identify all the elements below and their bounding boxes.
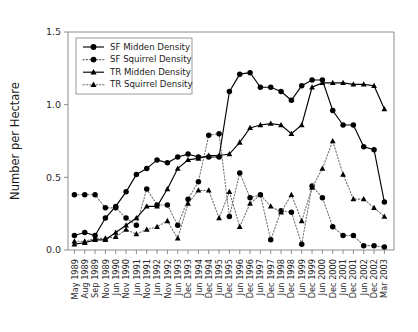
data-point-circle bbox=[340, 233, 346, 239]
y-tick-label: 0.0 bbox=[46, 244, 61, 255]
data-point-circle bbox=[206, 132, 212, 138]
data-point-circle bbox=[134, 223, 140, 229]
legend-label: TR Squirrel Density bbox=[109, 79, 193, 89]
x-tick-label: Jun 1999 bbox=[297, 259, 307, 296]
data-point-triangle bbox=[206, 187, 212, 192]
x-tick-label: Nov 1991 bbox=[142, 259, 152, 298]
data-point-triangle bbox=[237, 224, 243, 229]
data-point-circle bbox=[134, 172, 140, 178]
x-tick-label: Nov 1992 bbox=[163, 259, 173, 298]
data-point-circle bbox=[113, 204, 119, 210]
data-point-triangle bbox=[216, 215, 222, 220]
x-tick-label: Jun 2000 bbox=[317, 259, 327, 296]
data-point-circle bbox=[382, 244, 388, 250]
data-point-circle bbox=[351, 233, 357, 239]
x-tick-label: Aug 1989 bbox=[80, 259, 90, 298]
data-point-circle bbox=[330, 108, 336, 114]
chart-figure: 0.00.51.01.5Number per HectareMay 1989Au… bbox=[0, 0, 418, 332]
x-tick-label: Dec 2002 bbox=[369, 259, 379, 298]
data-point-circle bbox=[144, 186, 150, 192]
data-point-triangle bbox=[165, 218, 171, 223]
x-tick-label: Dec 1993 bbox=[183, 259, 193, 298]
x-tick-label: Dec 2001 bbox=[348, 259, 358, 298]
data-point-circle bbox=[72, 192, 78, 198]
x-tick-label: Jun 1991 bbox=[132, 259, 142, 296]
y-axis-label: Number per Hectare bbox=[8, 82, 22, 200]
data-point-triangle bbox=[289, 192, 295, 197]
x-tick-label: Dec 1996 bbox=[245, 259, 255, 298]
data-point-triangle bbox=[113, 229, 119, 234]
data-point-triangle bbox=[382, 106, 388, 111]
data-point-circle bbox=[320, 195, 326, 201]
data-point-triangle bbox=[299, 122, 305, 127]
data-point-triangle bbox=[154, 224, 160, 229]
data-point-circle bbox=[237, 170, 243, 176]
data-point-circle bbox=[351, 122, 357, 128]
x-tick-label: Nov 1989 bbox=[101, 259, 111, 298]
data-point-circle bbox=[154, 157, 160, 163]
data-point-circle bbox=[361, 144, 367, 150]
data-point-circle bbox=[92, 192, 98, 198]
data-point-circle bbox=[247, 70, 253, 76]
data-point-circle bbox=[175, 223, 181, 229]
data-point-triangle bbox=[299, 218, 305, 223]
series-line bbox=[74, 83, 384, 244]
x-tick-label: Nov 1990 bbox=[121, 259, 131, 298]
data-point-circle bbox=[103, 215, 109, 221]
series-tr-midden-density bbox=[72, 80, 388, 247]
x-tick-label: Dec 1997 bbox=[266, 259, 276, 298]
x-tick-label: Jun 1998 bbox=[276, 259, 286, 296]
data-point-triangle bbox=[123, 222, 129, 227]
x-tick-label: Dec 1995 bbox=[224, 259, 234, 298]
data-point-circle bbox=[185, 151, 191, 157]
data-point-circle bbox=[216, 131, 222, 137]
data-point-circle bbox=[340, 122, 346, 128]
x-tick-label: Sep 1989 bbox=[90, 259, 100, 298]
x-tick-label: Jun 1994 bbox=[194, 259, 204, 296]
data-point-circle bbox=[268, 237, 274, 243]
legend-label: SF Squirrel Density bbox=[110, 54, 192, 64]
data-point-triangle bbox=[320, 166, 326, 171]
data-point-circle bbox=[103, 205, 109, 211]
y-tick-label: 0.5 bbox=[46, 172, 61, 183]
data-point-circle bbox=[227, 89, 233, 95]
data-point-circle bbox=[268, 84, 274, 90]
data-point-circle bbox=[72, 233, 78, 239]
data-point-triangle bbox=[247, 200, 253, 205]
data-point-circle bbox=[299, 241, 305, 247]
x-tick-label: Jun 2002 bbox=[359, 259, 369, 296]
data-point-circle bbox=[227, 214, 233, 220]
data-point-circle bbox=[123, 189, 129, 195]
legend-label: TR Midden Density bbox=[109, 67, 191, 77]
data-point-circle bbox=[309, 77, 315, 83]
x-tick-label: Jun 1995 bbox=[214, 259, 224, 296]
data-point-triangle bbox=[165, 186, 171, 191]
y-tick-label: 1.0 bbox=[46, 99, 61, 110]
data-point-circle bbox=[91, 57, 97, 63]
x-tick-label: Dec 1998 bbox=[286, 259, 296, 298]
data-point-circle bbox=[278, 89, 284, 95]
data-point-circle bbox=[382, 199, 388, 205]
x-tick-label: May 1989 bbox=[70, 259, 80, 299]
data-point-triangle bbox=[330, 138, 336, 143]
data-point-circle bbox=[82, 230, 88, 236]
y-tick-label: 1.5 bbox=[46, 26, 61, 37]
data-point-circle bbox=[289, 209, 295, 215]
data-point-circle bbox=[247, 195, 253, 201]
data-point-circle bbox=[91, 44, 97, 50]
x-tick-label: Jun 1992 bbox=[152, 259, 162, 296]
data-point-circle bbox=[165, 160, 171, 166]
data-point-circle bbox=[144, 166, 150, 172]
data-point-triangle bbox=[227, 189, 233, 194]
legend: SF Midden DensitySF Squirrel DensityTR M… bbox=[76, 38, 193, 94]
x-tick-label: Jun 1997 bbox=[255, 259, 265, 296]
data-point-circle bbox=[82, 192, 88, 198]
data-point-triangle bbox=[268, 120, 274, 125]
data-point-circle bbox=[330, 224, 336, 230]
data-point-circle bbox=[371, 147, 377, 153]
data-point-circle bbox=[361, 243, 367, 249]
data-point-circle bbox=[196, 179, 202, 185]
data-point-triangle bbox=[175, 235, 181, 240]
density-line-chart: 0.00.51.01.5Number per HectareMay 1989Au… bbox=[0, 0, 418, 332]
x-tick-label: Jun 2001 bbox=[338, 259, 348, 296]
